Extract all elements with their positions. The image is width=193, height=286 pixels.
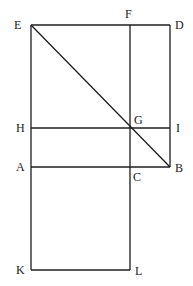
label-G: G bbox=[134, 113, 143, 127]
label-H: H bbox=[16, 121, 25, 135]
label-L: L bbox=[135, 264, 142, 278]
label-D: D bbox=[175, 18, 184, 32]
diagonal-EB bbox=[31, 25, 170, 167]
label-I: I bbox=[176, 121, 180, 135]
label-K: K bbox=[16, 263, 25, 277]
label-C: C bbox=[133, 170, 141, 184]
label-F: F bbox=[125, 7, 132, 21]
label-A: A bbox=[16, 160, 25, 174]
geometry-diagram: E F D H G I A C B K L bbox=[0, 0, 193, 286]
label-E: E bbox=[14, 18, 21, 32]
label-B: B bbox=[175, 161, 183, 175]
